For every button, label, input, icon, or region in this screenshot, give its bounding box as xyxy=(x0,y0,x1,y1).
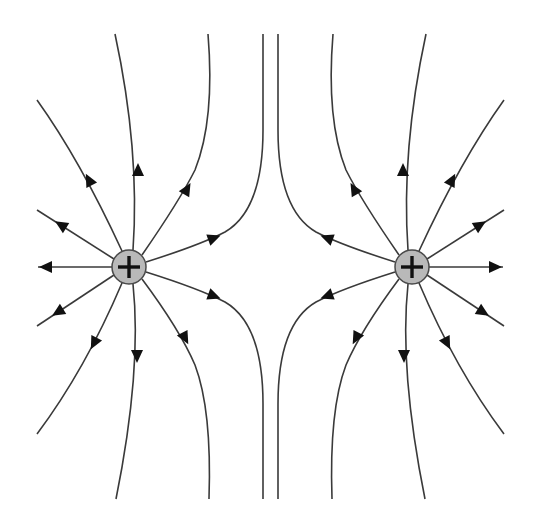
arrow-up-right-icon xyxy=(472,216,489,233)
field-line xyxy=(332,279,399,499)
field-line xyxy=(37,100,122,251)
field-line xyxy=(278,272,395,499)
field-line xyxy=(427,275,504,326)
arrow-down-icon xyxy=(131,350,143,363)
field-line xyxy=(427,210,504,259)
field-line xyxy=(146,272,263,499)
field-line xyxy=(115,34,135,250)
field-line xyxy=(37,283,122,434)
field-line xyxy=(116,284,135,499)
charge-sign-label: + xyxy=(0,0,9,3)
arrow-left-icon xyxy=(39,261,52,273)
arrow-down-left-icon xyxy=(49,304,66,321)
arrow-down-icon xyxy=(398,350,410,363)
field-line xyxy=(406,284,425,499)
left-charge-field-lines xyxy=(37,34,263,499)
arrow-down-right-icon xyxy=(475,304,492,321)
field-line xyxy=(142,279,209,499)
arrow-up-left-icon xyxy=(52,216,69,233)
field-line xyxy=(146,34,263,262)
field-line xyxy=(37,275,114,326)
field-line xyxy=(278,34,395,262)
field-line xyxy=(406,34,426,250)
arrow-right-icon xyxy=(206,288,222,304)
field-line xyxy=(419,283,504,434)
arrow-down-right-icon xyxy=(439,335,456,352)
arrow-right-icon xyxy=(206,230,222,246)
right-charge-field-lines xyxy=(278,34,504,499)
left-positive-charge: + xyxy=(0,0,146,284)
field-line xyxy=(419,100,504,251)
arrow-right-icon xyxy=(489,261,502,273)
field-line xyxy=(142,34,210,255)
arrow-left-icon xyxy=(318,230,334,246)
arrow-left-icon xyxy=(318,288,334,304)
electric-field-diagram: + + xyxy=(0,0,538,523)
field-line xyxy=(37,210,114,259)
arrow-down-left-icon xyxy=(85,335,102,352)
field-line xyxy=(331,34,399,255)
